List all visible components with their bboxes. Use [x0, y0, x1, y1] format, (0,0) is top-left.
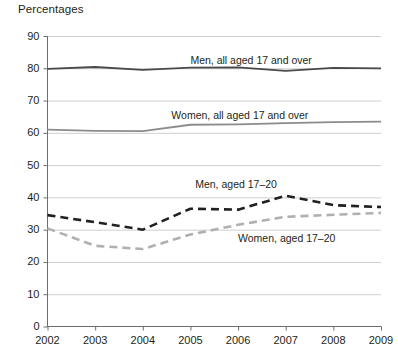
- y-tick-label: 0: [14, 321, 40, 332]
- y-tick-label: 80: [14, 63, 40, 74]
- y-tick-label: 60: [14, 127, 40, 138]
- x-tick-label: 2008: [313, 335, 353, 346]
- x-tick-label: 2004: [123, 335, 163, 346]
- y-tick-label: 40: [14, 192, 40, 203]
- y-tick-label: 70: [14, 95, 40, 106]
- y-tick-label: 50: [14, 160, 40, 171]
- x-tick-label: 2002: [28, 335, 68, 346]
- y-tick-label: 30: [14, 224, 40, 235]
- x-tick-label: 2005: [170, 335, 210, 346]
- series-line: [48, 122, 382, 132]
- y-tick-label: 20: [14, 256, 40, 267]
- gridlines: [48, 37, 382, 295]
- series-label: Men, aged 17–20: [195, 178, 277, 190]
- series-label: Men, all aged 17 and over: [190, 54, 311, 66]
- series-line: [48, 196, 382, 230]
- y-axis-ticks: [44, 37, 48, 328]
- series-label: Women, aged 17–20: [238, 232, 335, 244]
- x-tick-label: 2006: [218, 335, 258, 346]
- data-series: [48, 67, 382, 249]
- y-tick-label: 10: [14, 289, 40, 300]
- x-tick-label: 2007: [266, 335, 306, 346]
- y-tick-label: 90: [14, 31, 40, 42]
- x-tick-label: 2009: [361, 335, 398, 346]
- series-label: Women, all aged 17 and over: [171, 109, 308, 121]
- x-tick-label: 2003: [75, 335, 115, 346]
- x-axis-ticks: [48, 327, 382, 331]
